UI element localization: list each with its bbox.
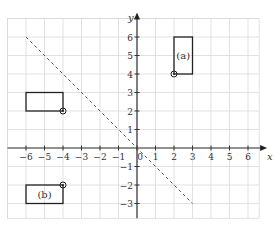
y-tick-label: −3 — [120, 199, 134, 209]
x-axis-label: x — [267, 151, 273, 162]
x-tick-label: −5 — [38, 152, 52, 162]
y-tick-label: 2 — [127, 107, 133, 117]
rectangle-label: (a) — [176, 50, 190, 61]
y-axis-arrow-icon — [134, 13, 140, 20]
tick-labels: −6−5−4−3−2−10123456−3−2−1123456 — [19, 33, 251, 210]
x-tick-label: 1 — [153, 152, 159, 162]
y-axis-label: y — [127, 12, 134, 23]
axes: xy — [8, 12, 274, 219]
rectangle-label: (b) — [37, 189, 51, 200]
y-tick-label: 4 — [127, 70, 133, 80]
x-tick-label: −2 — [93, 152, 106, 162]
y-tick-label: 5 — [127, 51, 133, 61]
x-tick-label: 4 — [208, 152, 214, 162]
x-tick-label: 6 — [245, 152, 251, 162]
rectangle-shape-original — [26, 93, 66, 115]
rectangle-shape-a: (a) — [171, 37, 193, 77]
x-tick-label: 3 — [190, 152, 196, 162]
x-tick-label: 5 — [227, 152, 233, 162]
rectangle-shape-b: (b) — [26, 182, 66, 204]
y-tick-label: 1 — [127, 125, 133, 135]
shapes: (a)(b) — [26, 37, 193, 204]
y-tick-label: 3 — [127, 88, 133, 98]
x-tick-label: −6 — [19, 152, 33, 162]
x-axis-arrow-icon — [260, 145, 267, 151]
dashed-mirror-line — [26, 37, 193, 204]
y-tick-label: −2 — [120, 181, 133, 191]
y-tick-label: −1 — [120, 162, 133, 172]
vertex-dot-icon — [173, 73, 175, 75]
coordinate-plane: xy −6−5−4−3−2−10123456−3−2−1123456 (a)(b… — [0, 0, 274, 227]
x-tick-label: −3 — [75, 152, 89, 162]
x-tick-label: −4 — [56, 152, 70, 162]
x-tick-label: 2 — [171, 152, 177, 162]
vertex-dot-icon — [62, 110, 64, 112]
x-tick-label: −1 — [112, 152, 125, 162]
vertex-dot-icon — [62, 184, 64, 186]
y-tick-label: 6 — [127, 33, 133, 43]
